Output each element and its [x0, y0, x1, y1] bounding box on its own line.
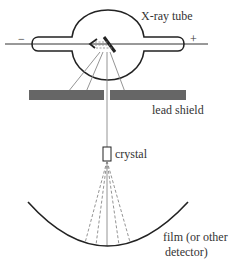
lead-shield-label: lead shield — [152, 103, 204, 117]
lead-shield-right — [110, 90, 186, 100]
xray-diffraction-diagram: X-ray tube − + lead shield crystal film … — [0, 0, 231, 267]
film-label-line1: film (or other — [163, 230, 228, 244]
diffracted-rays — [85, 161, 130, 246]
crystal-label: crystal — [115, 147, 148, 161]
cathode-minus-label: − — [18, 32, 25, 46]
lead-shield-left — [29, 90, 104, 100]
film-label-line2: detector) — [165, 245, 208, 259]
crystal-icon — [103, 147, 111, 161]
xray-tube-label: X-ray tube — [141, 9, 193, 23]
anode-plus-label: + — [190, 32, 197, 46]
